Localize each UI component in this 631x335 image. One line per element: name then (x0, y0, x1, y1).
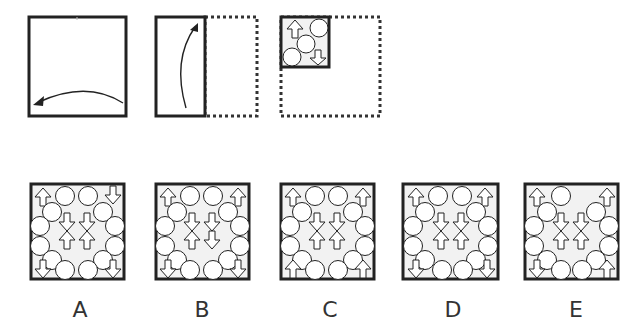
option-e-label: E (556, 297, 596, 322)
option-b-label: B (182, 297, 222, 322)
circle-hole (283, 48, 301, 66)
step-2-panel (154, 15, 260, 119)
step-1-panel (27, 15, 129, 119)
step-3-panel (279, 15, 385, 119)
option-e[interactable] (523, 182, 621, 282)
circle-hole (297, 35, 315, 53)
option-d-label: D (433, 297, 473, 322)
option-a-label: A (60, 297, 100, 322)
option-b[interactable] (154, 182, 252, 282)
circle-hole (310, 19, 328, 37)
option-a-diagram (29, 182, 127, 282)
option-b-diagram (154, 182, 252, 282)
option-a[interactable] (29, 182, 127, 282)
step-2-diagram (154, 15, 260, 119)
option-d-diagram (401, 182, 501, 282)
option-c-diagram (279, 182, 377, 282)
option-d[interactable] (401, 182, 501, 282)
option-c-label: C (310, 297, 350, 322)
step-1-diagram (27, 15, 129, 119)
step-3-diagram (279, 15, 385, 119)
option-c[interactable] (279, 182, 377, 282)
option-e-diagram (523, 182, 621, 282)
